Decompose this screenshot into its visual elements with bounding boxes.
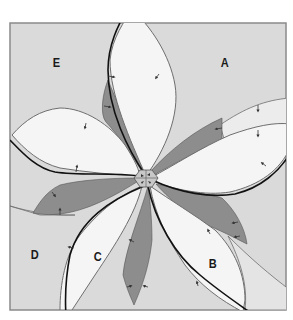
rosette-diagram bbox=[0, 0, 293, 320]
region-label-e: E bbox=[53, 55, 60, 70]
region-label-a: A bbox=[221, 55, 229, 70]
diagram-canvas: A B C D E bbox=[0, 0, 293, 320]
region-label-c: C bbox=[94, 249, 102, 264]
region-label-d: D bbox=[31, 247, 39, 262]
region-label-b: B bbox=[209, 256, 217, 271]
